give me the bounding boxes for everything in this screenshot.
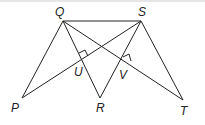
label-Q: Q xyxy=(55,5,64,19)
geometry-figure: Q S P R T U V xyxy=(0,0,205,125)
segment-ST xyxy=(141,21,183,100)
label-S: S xyxy=(138,5,146,19)
label-P: P xyxy=(11,101,19,115)
label-U: U xyxy=(74,65,83,79)
right-angle-mark-V xyxy=(123,54,131,61)
segment-SR xyxy=(100,21,141,98)
label-T: T xyxy=(180,104,189,118)
segment-SP xyxy=(22,21,141,98)
label-V: V xyxy=(119,68,128,82)
segment-QP xyxy=(22,21,63,98)
right-angle-mark-U xyxy=(79,50,88,56)
label-R: R xyxy=(96,101,105,115)
